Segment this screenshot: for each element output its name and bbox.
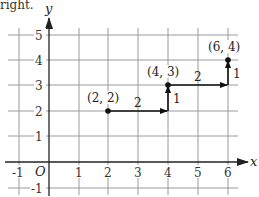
svg-text:2: 2	[104, 166, 112, 180]
svg-text:2: 2	[35, 105, 43, 119]
x-axis-label: x	[250, 154, 258, 169]
svg-text:-1: -1	[31, 182, 43, 196]
svg-text:(4, 3): (4, 3)	[147, 65, 179, 79]
svg-text:5: 5	[35, 29, 43, 43]
svg-text:6: 6	[224, 166, 232, 180]
y-axis-label: y	[44, 1, 53, 16]
svg-text:1: 1	[75, 166, 83, 180]
svg-text:3: 3	[134, 166, 142, 180]
step-label-run-1: 2	[134, 96, 142, 110]
svg-text:1: 1	[35, 130, 43, 144]
svg-text:3: 3	[35, 79, 43, 93]
point-2-2	[105, 108, 111, 114]
origin-label: O	[35, 164, 46, 179]
svg-text:-1: -1	[12, 166, 24, 180]
svg-text:(6, 4): (6, 4)	[208, 40, 240, 54]
point-4-3	[165, 82, 171, 88]
step-label-rise-2: 1	[233, 67, 241, 81]
svg-text:(2, 2): (2, 2)	[87, 91, 119, 105]
coordinate-plane: right. x y O 5 4 3 2 1 -1	[0, 0, 259, 197]
header-fragment: right.	[0, 0, 34, 12]
point-6-4	[225, 57, 231, 63]
svg-text:5: 5	[194, 166, 202, 180]
step-label-rise-1: 1	[173, 92, 181, 106]
svg-text:4: 4	[35, 54, 43, 68]
step-label-run-2: 2	[194, 70, 202, 84]
svg-text:4: 4	[164, 166, 172, 180]
